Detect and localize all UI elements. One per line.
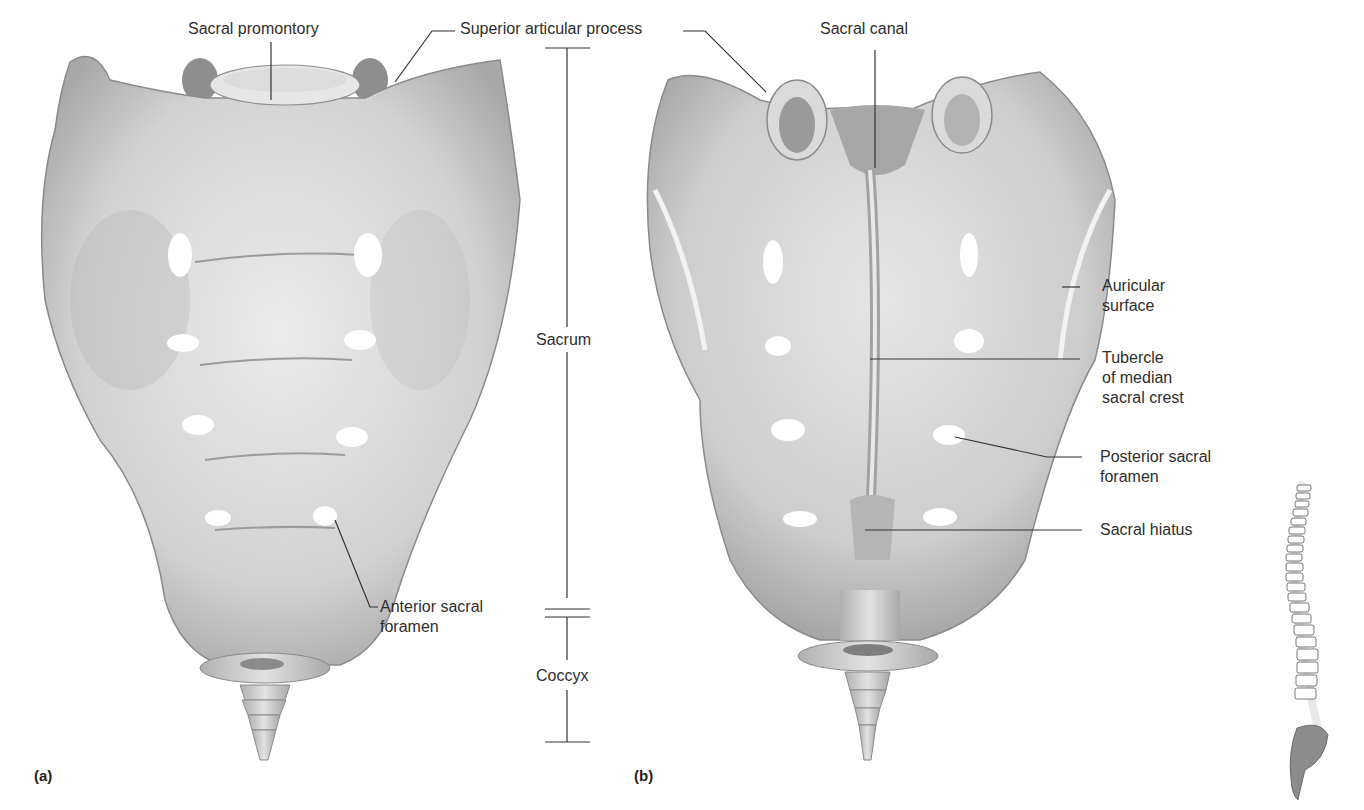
label-sacral-hiatus: Sacral hiatus	[1100, 520, 1193, 540]
anterior-foramen-line-2: foramen	[380, 617, 483, 637]
anterior-foramen-line-1: Anterior sacral	[380, 597, 483, 617]
tubercle-line-2: of median	[1102, 368, 1184, 388]
tubercle-line-3: sacral crest	[1102, 388, 1184, 408]
posterior-sacrum-illustration	[647, 72, 1115, 760]
auricular-surface-line-2: surface	[1102, 296, 1165, 316]
tubercle-line-1: Tubercle	[1102, 348, 1184, 368]
label-sacrum: Sacrum	[536, 330, 591, 350]
sacrum-coccyx-figure: Sacral promontory Superior articular pro…	[0, 0, 1364, 810]
label-sacral-canal: Sacral canal	[820, 19, 908, 39]
label-posterior-sacral-foramen: Posterior sacral foramen	[1100, 447, 1211, 487]
posterior-foramen-line-1: Posterior sacral	[1100, 447, 1211, 467]
label-anterior-sacral-foramen: Anterior sacral foramen	[380, 597, 483, 637]
label-coccyx: Coccyx	[536, 666, 588, 686]
vertebral-column-locator-icon	[1286, 485, 1328, 800]
panel-tag-a: (a)	[34, 767, 52, 784]
label-tubercle-median-sacral-crest: Tubercle of median sacral crest	[1102, 348, 1184, 408]
auricular-surface-line-1: Auricular	[1102, 276, 1165, 296]
anterior-sacrum-illustration	[42, 56, 520, 760]
label-auricular-surface: Auricular surface	[1102, 276, 1165, 316]
posterior-foramen-line-2: foramen	[1100, 467, 1211, 487]
label-superior-articular-process: Superior articular process	[460, 19, 642, 39]
label-sacral-promontory: Sacral promontory	[188, 19, 319, 39]
panel-tag-b: (b)	[634, 767, 653, 784]
